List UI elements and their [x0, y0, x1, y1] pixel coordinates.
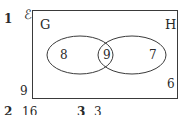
- left-outside-label: 9: [20, 85, 28, 97]
- intersection-value: 9: [103, 49, 111, 61]
- outside-value: 6: [167, 78, 175, 90]
- footer-item-3-value: 3: [94, 106, 102, 115]
- h-only-value: 7: [149, 49, 157, 61]
- set-h-label: H: [165, 19, 176, 31]
- g-only-value: 8: [60, 49, 68, 61]
- universal-set-symbol: ℰ: [24, 9, 32, 21]
- footer-item-3-number: 3: [77, 106, 85, 115]
- footer-item-2-number: 2: [4, 106, 12, 115]
- question-number: 1: [4, 13, 12, 25]
- footer-item-2-value: 16: [22, 106, 37, 115]
- set-g-label: G: [40, 19, 50, 31]
